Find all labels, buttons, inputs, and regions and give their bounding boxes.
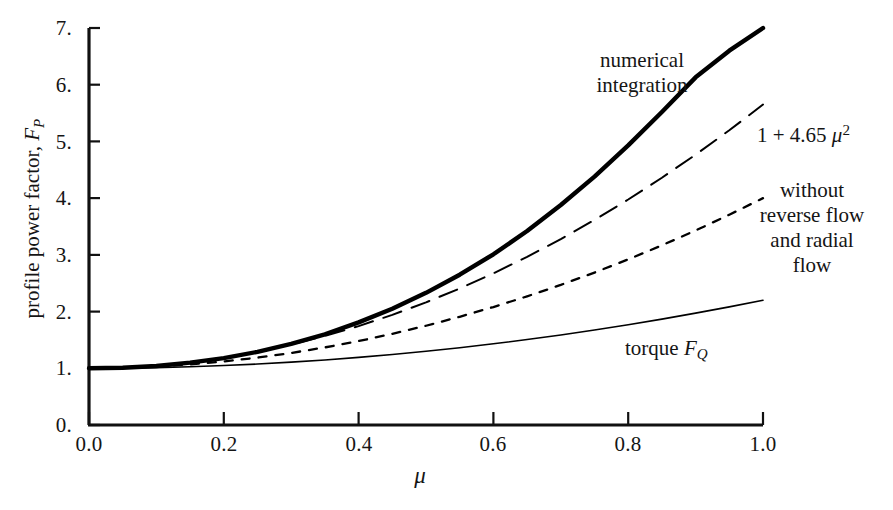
annotation-fit-formula-text: 1 + 4.65 xyxy=(757,123,832,147)
y-axis-ticks xyxy=(89,28,100,425)
annotation-fit-formula-exponent: 2 xyxy=(842,122,850,138)
y-axis-title-symbol-subscript: P xyxy=(31,119,47,128)
annotation-torque-symbol: F xyxy=(684,336,697,360)
y-axis-title-symbol: F xyxy=(20,128,44,141)
annotation-without-reverse-flow: without reverse flow and radial flow xyxy=(736,178,888,278)
x-axis-ticks xyxy=(89,412,763,425)
y-axis-title: profile power factor, FP xyxy=(20,89,47,349)
figure-root: 0. 1. 2. 3. 4. 5. 6. 7. 0.0 0.2 0.4 0.6 … xyxy=(0,0,893,510)
x-tick-label-5: 1.0 xyxy=(723,432,803,457)
y-tick-label-7: 7. xyxy=(26,16,72,41)
x-tick-label-1: 0.2 xyxy=(184,432,264,457)
annotation-fit-formula: 1 + 4.65 μ2 xyxy=(757,118,893,148)
y-tick-label-1: 1. xyxy=(26,356,72,381)
x-tick-label-0: 0.0 xyxy=(49,432,129,457)
x-axis-title: μ xyxy=(380,463,460,489)
curve-1 xyxy=(89,105,763,369)
x-tick-label-2: 0.4 xyxy=(319,432,399,457)
x-tick-label-3: 0.6 xyxy=(453,432,533,457)
annotation-torque-text: torque xyxy=(625,336,684,360)
annotation-torque: torque FQ xyxy=(625,336,815,367)
y-axis-title-text: profile power factor, xyxy=(20,141,44,319)
annotation-fit-formula-symbol: μ xyxy=(832,123,843,147)
annotation-numerical-integration: numerical integration xyxy=(547,48,737,98)
x-tick-label-4: 0.8 xyxy=(588,432,668,457)
annotation-torque-symbol-subscript: Q xyxy=(697,346,708,362)
